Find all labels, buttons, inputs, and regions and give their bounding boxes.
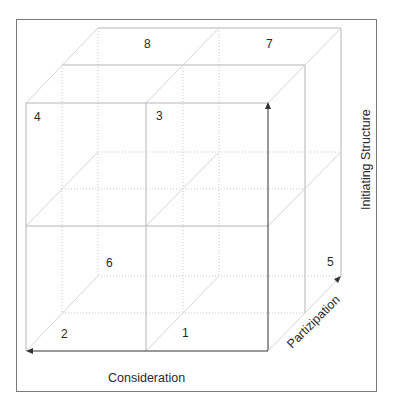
axis-label-initiating-structure: Initiating Structure <box>359 109 373 210</box>
axis-label-consideration: Consideration <box>108 371 185 385</box>
cell-label-5: 5 <box>327 255 334 269</box>
cell-label-4: 4 <box>34 110 41 124</box>
cell-label-2: 2 <box>61 327 68 341</box>
arrow-left-icon <box>26 348 33 354</box>
cell-label-3: 3 <box>156 109 163 123</box>
diagram-frame <box>17 20 377 392</box>
axis-label-partizipation: Partizipation <box>284 293 343 352</box>
cell-label-8: 8 <box>144 37 151 51</box>
cell-label-6: 6 <box>106 256 113 270</box>
cube-diagram: 1 2 3 4 5 6 7 8 Consideration Initiating… <box>0 0 393 407</box>
cell-label-7: 7 <box>266 37 273 51</box>
cell-label-1: 1 <box>182 326 189 340</box>
